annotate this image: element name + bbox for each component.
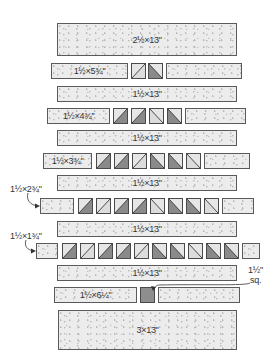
callout-square-sub: sq. (250, 276, 261, 285)
triangle-square-dark-down (148, 63, 163, 79)
triangle-square-dark-up (62, 243, 77, 259)
row5-right-strip (242, 243, 260, 259)
strip-label: 1½×13" (132, 268, 161, 278)
bottom-block: 3×13" (58, 310, 237, 350)
triangle-square-light-down (188, 243, 203, 259)
row4-right-strip (222, 198, 254, 214)
strip-label: 1½×13" (132, 224, 161, 234)
strip-13: 1½×13" (57, 221, 237, 237)
triangle-square-light-down (149, 108, 164, 124)
row2-left-label: 1½×4¾" (63, 111, 95, 121)
triangle-square-light-down (204, 198, 219, 214)
triangle-square-dark-down (168, 153, 183, 169)
row1-right-strip (166, 63, 242, 79)
triangle-square-dark-up (116, 243, 131, 259)
row1-left-label: 1½×5¾" (74, 66, 106, 76)
strip-13: 1½×13" (57, 130, 237, 146)
top-block: 2½×13" (57, 23, 237, 56)
strip-13: 1½×13" (57, 86, 237, 102)
triangle-square-light-up (134, 243, 149, 259)
row3-left-label: 1½×3¾" (52, 156, 84, 166)
triangle-square-dark-up (96, 153, 111, 169)
strip-13: 1½×13" (57, 175, 237, 191)
row5-left-strip (36, 243, 58, 259)
row4-left-strip (40, 198, 74, 214)
triangle-square-dark-down (167, 108, 182, 124)
row3-right-strip (204, 153, 250, 169)
triangle-square-light-down (186, 153, 201, 169)
triangle-square-dark-down (186, 198, 201, 214)
triangle-square-dark-up (78, 198, 93, 214)
triangle-square-dark-down (224, 243, 239, 259)
triangle-square-light-up (96, 198, 111, 214)
center-square (140, 287, 155, 303)
strip-13: 1½×13" (57, 265, 237, 281)
strip-label: 1½×13" (132, 178, 161, 188)
triangle-square-light-down (150, 198, 165, 214)
triangle-square-dark-up (113, 108, 128, 124)
top-block-label: 2½×13" (132, 35, 161, 45)
callout-square-label: 1½" (248, 266, 263, 275)
strip-label: 1½×13" (132, 133, 161, 143)
triangle-square-light-up (131, 63, 146, 79)
triangle-square-dark-up (131, 108, 146, 124)
row6-right-strip (158, 287, 240, 303)
bottom-block-label: 3×13" (137, 325, 159, 335)
triangle-square-dark-down (152, 243, 167, 259)
triangle-square-dark-up (114, 198, 129, 214)
triangle-square-light-up (80, 243, 95, 259)
triangle-square-light-up (132, 153, 147, 169)
triangle-square-dark-up (132, 198, 147, 214)
triangle-square-dark-down (170, 243, 185, 259)
row6-left-label: 1½×6¼" (80, 290, 112, 300)
triangle-square-dark-down (150, 153, 165, 169)
strip-label: 1½×13" (132, 89, 161, 99)
triangle-square-dark-up (114, 153, 129, 169)
triangle-square-dark-down (168, 198, 183, 214)
row3-left-strip: 1½×3¾" (43, 153, 92, 169)
callout-row5-label: 1½×1¾" (10, 232, 42, 241)
triangle-square-dark-up (98, 243, 113, 259)
row6-left-strip: 1½×6¼" (54, 287, 137, 303)
callout-row4-label: 1½×2¾" (10, 185, 42, 194)
triangle-square-dark-down (206, 243, 221, 259)
row1-left-strip: 1½×5¾" (51, 63, 128, 79)
row2-right-strip (185, 108, 246, 124)
row2-left-strip: 1½×4¾" (47, 108, 110, 124)
